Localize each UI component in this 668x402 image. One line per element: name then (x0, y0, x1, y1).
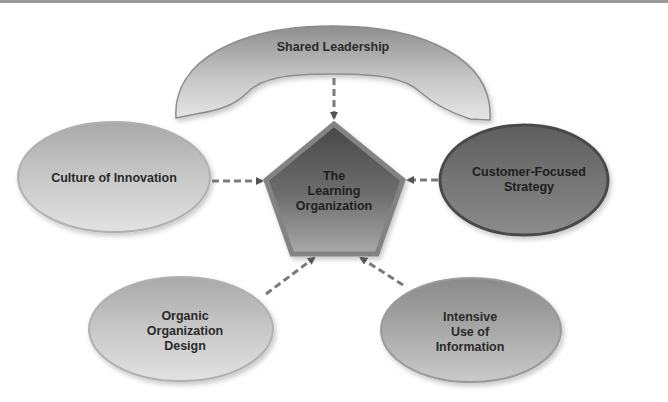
label-line: Organization (147, 324, 223, 339)
label-line: Use of (451, 325, 489, 340)
label-line: Intensive (443, 310, 497, 325)
label-line: Information (436, 340, 505, 355)
label-line: Culture of Innovation (51, 171, 177, 186)
label-line: The (323, 169, 345, 184)
label-line: Organic (161, 309, 208, 324)
arrow-intensive-use-of-information (361, 258, 403, 285)
label-line: Shared Leadership (277, 40, 390, 55)
customer-focused-strategy-label: Customer-Focused Strategy (454, 162, 604, 198)
shared-leadership-label: Shared Leadership (233, 37, 433, 57)
arrow-organic-organization-design (266, 258, 314, 294)
label-line: Strategy (504, 180, 554, 195)
center-label: The Learning Organization (284, 167, 384, 215)
intensive-use-of-information-label: Intensive Use of Information (420, 307, 520, 357)
label-line: Organization (296, 199, 372, 214)
culture-of-innovation-label: Culture of Innovation (34, 168, 194, 188)
organic-organization-design-label: Organic Organization Design (130, 306, 240, 356)
label-line: Customer-Focused (472, 165, 586, 180)
label-line: Design (164, 339, 206, 354)
label-line: Learning (308, 184, 361, 199)
